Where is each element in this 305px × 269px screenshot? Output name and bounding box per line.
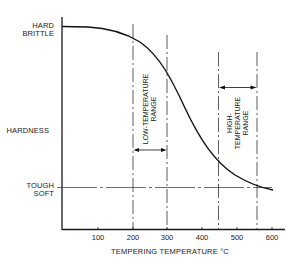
tick-300: 300	[161, 233, 174, 242]
tick-400: 400	[196, 233, 209, 242]
tick-100: 100	[92, 233, 105, 242]
high-range-line2: TEMPERATURE	[234, 94, 242, 152]
high-temperature-range-label: HIGH- TEMPERATURE RANGE	[226, 94, 250, 152]
label-soft: SOFT	[10, 190, 54, 198]
high-range-line3: RANGE	[242, 94, 250, 152]
x-axis-title: TEMPERING TEMPERATURE °C	[111, 247, 229, 256]
low-range-line2: RANGE	[150, 73, 158, 145]
y-axis-label: HARDNESS	[5, 127, 49, 135]
low-range-arrow	[134, 148, 167, 152]
high-range-line1: HIGH-	[226, 94, 234, 152]
label-brittle: BRITTLE	[14, 30, 54, 38]
x-ticks	[98, 227, 272, 229]
low-range-line1: LOW-TEMPERATURE	[142, 73, 150, 145]
high-range-arrow	[219, 86, 257, 90]
tick-200: 200	[127, 233, 140, 242]
tick-600: 600	[266, 233, 279, 242]
low-temperature-range-label: LOW-TEMPERATURE RANGE	[142, 73, 158, 145]
tick-500: 500	[231, 233, 244, 242]
label-hard-brittle: HARD BRITTLE	[14, 22, 54, 38]
label-tough-soft: TOUGH SOFT	[10, 182, 54, 198]
